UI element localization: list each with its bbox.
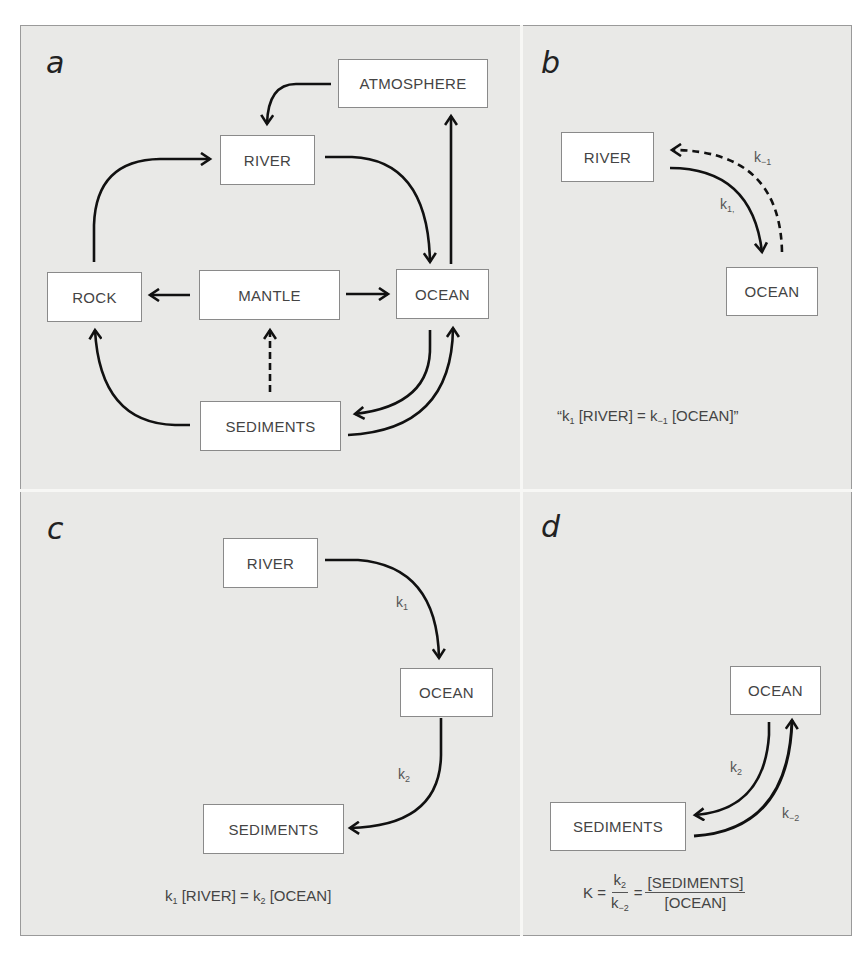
figure-frame — [20, 25, 852, 936]
box-c-river: RIVER — [223, 538, 318, 588]
box-d-ocean: OCEAN — [730, 666, 821, 715]
box-d-sediments: SEDIMENTS — [550, 802, 686, 851]
rate-label-k1: k1, — [720, 197, 735, 214]
box-rock: ROCK — [47, 272, 142, 322]
panel-divider-horizontal — [20, 489, 852, 492]
box-mantle: MANTLE — [199, 270, 340, 320]
rate-label-d-k2: k2 — [730, 760, 742, 777]
equation-d: K = k2 k−2 = [SEDIMENTS] [OCEAN] — [583, 872, 748, 913]
box-b-ocean: OCEAN — [726, 267, 818, 316]
panel-label-a: a — [46, 48, 64, 78]
box-sediments: SEDIMENTS — [200, 401, 341, 451]
box-ocean: OCEAN — [396, 269, 489, 319]
box-c-ocean: OCEAN — [400, 668, 493, 717]
equation-c: k1 [RIVER] = k2 [OCEAN] — [165, 888, 331, 906]
panel-label-d: d — [541, 512, 560, 542]
rate-label-k-minus-1: k−1 — [754, 150, 771, 167]
box-b-river: RIVER — [561, 132, 654, 182]
fraction-concentrations: [SEDIMENTS] [OCEAN] — [645, 875, 745, 910]
panel-divider-vertical — [520, 25, 523, 936]
panel-label-b: b — [541, 48, 560, 78]
box-river: RIVER — [220, 135, 315, 185]
equation-b: “k1 [RIVER] = k−1 [OCEAN]” — [557, 408, 739, 426]
fraction-rate-constants: k2 k−2 — [609, 872, 631, 913]
box-c-sediments: SEDIMENTS — [203, 804, 344, 854]
panel-label-c: c — [47, 514, 64, 544]
rate-label-d-k-minus-2: k−2 — [782, 806, 799, 823]
box-atmosphere: ATMOSPHERE — [338, 59, 488, 108]
rate-label-c-k1: k1 — [396, 595, 408, 612]
rate-label-c-k2: k2 — [398, 767, 410, 784]
